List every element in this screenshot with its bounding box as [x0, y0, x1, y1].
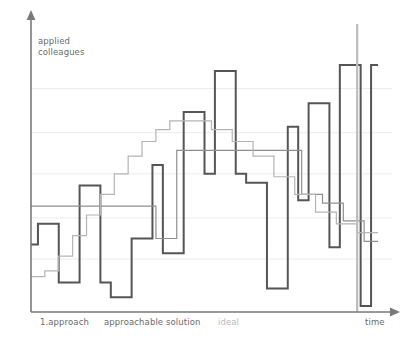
- series-group: [31, 65, 378, 306]
- series-line-1-approach: [31, 65, 378, 306]
- y-axis-label-line2: colleagues: [38, 47, 84, 58]
- y-axis-arrow-icon: [27, 10, 36, 20]
- x-tick-label-first-approach: 1.approach: [40, 317, 89, 328]
- x-axis-label-time: time: [365, 317, 385, 328]
- chart-container: applied colleagues 1.approach approachab…: [0, 0, 415, 345]
- x-tick-label-approachable-solution: approachable solution: [104, 317, 200, 328]
- x-axis-arrow-icon: [390, 308, 400, 317]
- y-axis-label-line1: applied: [38, 36, 84, 47]
- y-axis-label: applied colleagues: [38, 36, 84, 57]
- x-tick-label-ideal: ideal: [218, 317, 239, 328]
